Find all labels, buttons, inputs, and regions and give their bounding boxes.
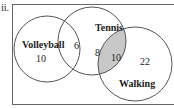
- tennis-walking-count: 10: [111, 52, 121, 63]
- venn-diagram: ii. Volleyball Tennis Walking 10 6 8 10 …: [0, 0, 174, 108]
- volleyball-only-count: 10: [36, 53, 46, 64]
- walking-label: Walking: [119, 78, 155, 89]
- tennis-label: Tennis: [95, 22, 123, 33]
- walking-only-count: 22: [140, 56, 150, 67]
- problem-label: ii.: [1, 2, 9, 13]
- volleyball-label: Volleyball: [22, 39, 65, 50]
- tennis-only-count: 8: [95, 47, 100, 58]
- volleyball-tennis-count: 6: [74, 40, 79, 51]
